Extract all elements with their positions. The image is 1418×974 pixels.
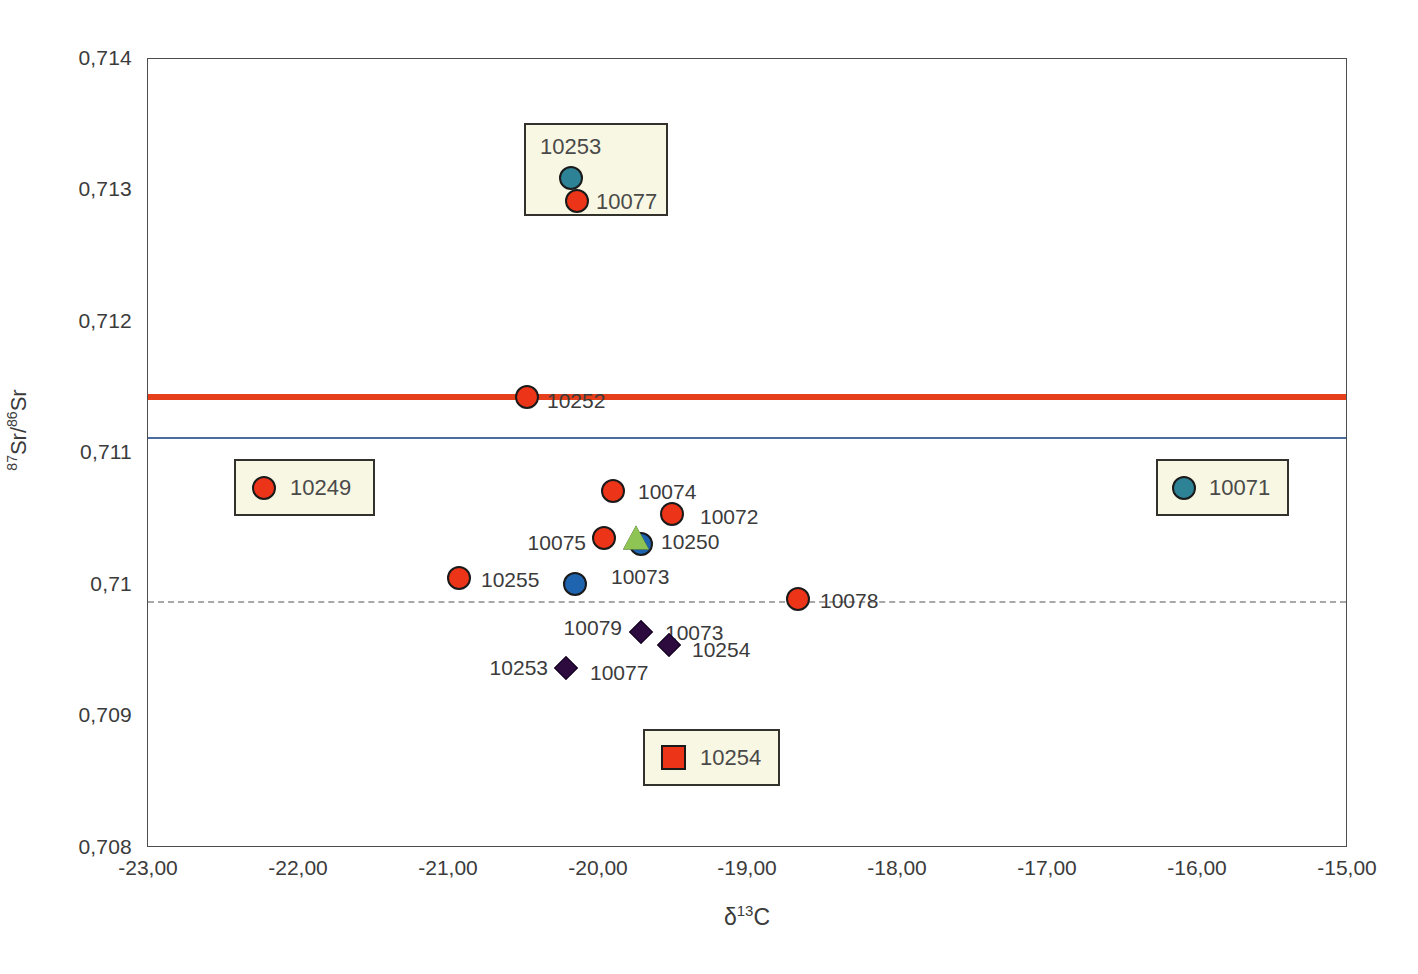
y-tick-label: 0,714 (78, 46, 132, 70)
y-tick-label: 0,712 (78, 309, 132, 333)
data-label-10074: 10074 (638, 480, 696, 504)
callout-10249: 10249 (234, 459, 375, 516)
data-point-10074 (601, 479, 625, 503)
x-tick-label: -23,00 (118, 856, 178, 880)
scatter-chart: 0,714 0,713 0,712 0,711 0,71 0,709 0,708… (0, 0, 1418, 974)
callout-10071: 10071 (1156, 459, 1289, 516)
gray-dashed-reference-line (148, 601, 1346, 603)
data-label-10255: 10255 (481, 568, 539, 592)
callout-label-10254: 10254 (700, 745, 761, 771)
callout-label-10077: 10077 (596, 189, 657, 215)
callout-marker-10253 (559, 166, 583, 190)
callout-label-10071: 10071 (1209, 475, 1270, 501)
data-point-10078 (786, 587, 810, 611)
data-label-10075: 10075 (528, 531, 586, 555)
data-label-10079: 10079 (564, 616, 622, 640)
data-label-10250: 10250 (661, 530, 719, 554)
x-tick-label: -21,00 (418, 856, 478, 880)
x-tick-label: -15,00 (1317, 856, 1377, 880)
data-point-10250-triangle (623, 526, 649, 550)
y-tick-label: 0,71 (90, 572, 132, 596)
data-label-10254-diamond: 10254 (692, 638, 750, 662)
x-tick-label: -17,00 (1017, 856, 1077, 880)
callout-label-10249: 10249 (290, 475, 351, 501)
callout-marker-10254 (661, 745, 686, 770)
callout-label-10253: 10253 (540, 134, 601, 160)
data-point-10072 (660, 502, 684, 526)
data-point-10073-circle (563, 572, 587, 596)
x-axis-title: δ13C (724, 902, 770, 931)
y-tick-label: 0,711 (80, 440, 132, 464)
red-reference-line (148, 394, 1346, 400)
callout-marker-10071 (1172, 476, 1196, 500)
data-label-10253-diamond: 10253 (490, 656, 548, 680)
data-label-10078: 10078 (820, 589, 878, 613)
callout-marker-10077 (565, 189, 589, 213)
x-tick-label: -22,00 (268, 856, 328, 880)
x-tick-label: -19,00 (717, 856, 777, 880)
y-tick-label: 0,709 (78, 703, 132, 727)
x-tick-label: -20,00 (568, 856, 628, 880)
data-point-10255 (447, 566, 471, 590)
y-axis-title: 87Sr/86Sr (4, 389, 31, 470)
data-label-10252: 10252 (547, 389, 605, 413)
blue-reference-line (148, 437, 1346, 439)
callout-10253-10077: 10253 10077 (524, 123, 668, 216)
data-label-10072: 10072 (700, 505, 758, 529)
y-tick-label: 0,713 (78, 177, 132, 201)
x-tick-label: -18,00 (867, 856, 927, 880)
x-tick-label: -16,00 (1167, 856, 1227, 880)
data-label-10077-diamond: 10077 (590, 661, 648, 685)
callout-10254: 10254 (643, 729, 780, 786)
data-point-10075 (592, 526, 616, 550)
data-point-10252 (515, 385, 539, 409)
y-axis-tick-labels: 0,714 0,713 0,712 0,711 0,71 0,709 0,708 (0, 0, 132, 974)
data-label-10073-circle: 10073 (611, 565, 669, 589)
x-axis-tick-labels: -23,00 -22,00 -21,00 -20,00 -19,00 -18,0… (0, 856, 1418, 896)
callout-marker-10249 (252, 476, 276, 500)
